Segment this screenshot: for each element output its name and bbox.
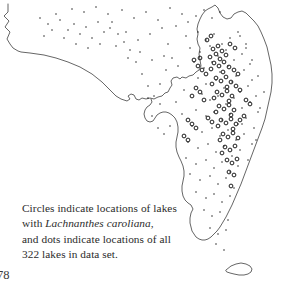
lake-dot	[249, 63, 251, 65]
lake-dot	[219, 71, 221, 73]
lake-dot	[257, 75, 259, 77]
caption-line-3: and dots indicate locations of all	[22, 233, 171, 245]
species-circle	[215, 90, 219, 94]
lake-dot	[171, 57, 173, 59]
lake-dot	[169, 125, 171, 127]
lake-dot	[181, 113, 183, 115]
lake-dot	[201, 131, 203, 133]
lake-dot	[219, 11, 221, 13]
species-name: Lachnanthes caroliana	[45, 217, 151, 229]
lake-dot	[107, 13, 109, 15]
species-circle	[232, 173, 236, 177]
species-circle	[218, 57, 222, 61]
species-circle	[217, 64, 221, 68]
species-circle	[221, 132, 225, 136]
species-circle	[194, 86, 198, 90]
lake-dot	[225, 177, 227, 179]
lake-dot	[233, 59, 235, 61]
lake-dot	[97, 21, 99, 23]
lake-dot	[213, 167, 215, 169]
lake-dot	[73, 23, 75, 25]
figure-caption: Circles indicate locations of lakes with…	[22, 201, 234, 262]
species-circle	[222, 107, 226, 111]
lake-dot	[209, 99, 211, 101]
species-circle	[222, 60, 226, 64]
lake-dot	[233, 187, 235, 189]
lake-dot	[103, 31, 105, 33]
lake-dot	[213, 193, 215, 195]
lake-dot	[205, 197, 207, 199]
caption-line-2-suffix: ,	[151, 217, 154, 229]
species-circle	[232, 108, 236, 112]
lake-dot	[203, 9, 205, 11]
lake-dot	[257, 111, 259, 113]
species-circle	[216, 44, 220, 48]
lake-dot	[195, 163, 197, 165]
lake-dot	[67, 29, 69, 31]
species-circle	[186, 118, 190, 122]
lake-dot	[217, 95, 219, 97]
species-circle	[208, 55, 212, 59]
lake-dot	[71, 8, 73, 10]
lake-dot	[161, 27, 163, 29]
species-circle	[220, 49, 224, 53]
lake-dot	[231, 155, 233, 157]
lake-dot	[125, 31, 127, 33]
species-circle	[225, 89, 229, 93]
lake-dot	[239, 149, 241, 151]
species-circle	[220, 93, 224, 97]
lake-dot	[167, 43, 169, 45]
lake-dot	[241, 107, 243, 109]
species-circle	[229, 184, 233, 188]
species-circle	[228, 148, 232, 152]
lake-dot	[221, 161, 223, 163]
species-circle	[229, 113, 233, 117]
lake-dot	[225, 49, 227, 51]
lake-dot	[243, 133, 245, 135]
lake-dot	[247, 85, 249, 87]
lake-dot	[117, 33, 119, 35]
lake-dot	[215, 151, 217, 153]
lake-dot	[253, 127, 255, 129]
lake-dot	[163, 133, 165, 135]
lake-dot	[151, 59, 153, 61]
caption-line-1: Circles indicate locations of lakes	[22, 202, 177, 214]
lake-dot	[129, 49, 131, 51]
lake-dot	[195, 191, 197, 193]
lake-dot	[229, 195, 231, 197]
species-circle	[231, 127, 235, 131]
lake-dot	[217, 183, 219, 185]
species-circle	[220, 151, 224, 155]
lake-dot	[225, 103, 227, 105]
lake-dot	[63, 37, 65, 39]
lake-dot	[183, 89, 185, 91]
lake-dot	[241, 53, 243, 55]
species-circle	[242, 114, 246, 118]
species-circle	[226, 135, 230, 139]
lake-dot	[177, 65, 179, 67]
species-circle	[227, 65, 231, 69]
lake-dot	[43, 35, 45, 37]
lake-dot	[87, 47, 89, 49]
lake-dot	[199, 51, 201, 53]
lake-dot	[205, 83, 207, 85]
species-circle	[190, 94, 194, 98]
species-circle	[216, 124, 220, 128]
lake-dot	[157, 127, 159, 129]
species-circle	[227, 103, 231, 107]
lake-dot	[211, 127, 213, 129]
lake-dot	[213, 33, 215, 35]
lake-dot	[153, 95, 155, 97]
species-circle	[236, 136, 240, 140]
species-circle	[228, 42, 232, 46]
species-circle	[231, 131, 235, 135]
lake-dot	[205, 159, 207, 161]
species-circle	[217, 104, 221, 108]
lake-dot	[251, 143, 253, 145]
species-circle	[224, 53, 228, 57]
species-circle	[196, 64, 200, 68]
species-circle	[202, 98, 206, 102]
lake-dot	[181, 13, 183, 15]
lake-dot	[75, 43, 77, 45]
species-circle	[219, 79, 223, 83]
